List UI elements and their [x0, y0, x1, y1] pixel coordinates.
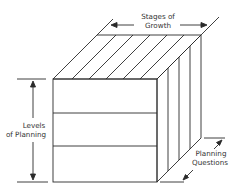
top-axis-ext-left — [97, 19, 113, 35]
arrowhead-right-icon — [201, 23, 207, 28]
planning-questions-label-line1: Planning — [196, 149, 227, 158]
cube-diagram: Stages of Growth Levels of Planning Plan… — [0, 0, 237, 194]
planning-questions-label-line2: Questions — [192, 158, 228, 167]
stages-of-growth-label-line2: Growth — [145, 21, 171, 30]
top-face-slices — [72, 35, 184, 79]
levels-of-planning-label-line2: of Planning — [6, 130, 46, 139]
arrowhead-up-icon — [31, 81, 36, 87]
arrowhead-diag-up-icon — [217, 140, 223, 146]
arrowhead-left-icon — [111, 23, 117, 28]
front-face — [53, 79, 157, 182]
levels-of-planning-label-line1: Levels — [23, 121, 46, 130]
arrowhead-down-icon — [31, 174, 36, 180]
stages-of-growth-label-line1: Stages of — [141, 12, 175, 21]
